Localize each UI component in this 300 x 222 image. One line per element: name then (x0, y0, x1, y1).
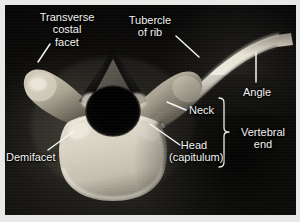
label-tubercle-of-rib: Tubercle of rib (120, 14, 180, 39)
label-line: costal (28, 23, 106, 35)
label-transverse-costal-facet: Transverse costal facet (28, 11, 106, 48)
label-head-capitulum: Head (capitulum) (169, 139, 219, 164)
label-line: Head (169, 139, 219, 151)
label-line: Tubercle (120, 14, 180, 26)
label-line: Transverse (28, 11, 106, 23)
label-line: Neck (189, 104, 214, 116)
label-line: Angle (243, 86, 271, 98)
anatomy-figure: Transverse costal facet Tubercle of rib … (0, 0, 300, 222)
label-demifacet: Demifacet (6, 151, 56, 163)
label-line: of rib (120, 26, 180, 38)
label-line: (capitulum) (169, 151, 219, 163)
label-vertebral-end: Vertebral end (235, 126, 291, 151)
label-line: Demifacet (6, 151, 56, 163)
label-line: facet (28, 36, 106, 48)
label-neck: Neck (189, 104, 214, 116)
label-angle: Angle (243, 86, 271, 98)
label-line: Vertebral (235, 126, 291, 138)
label-line: end (235, 138, 291, 150)
